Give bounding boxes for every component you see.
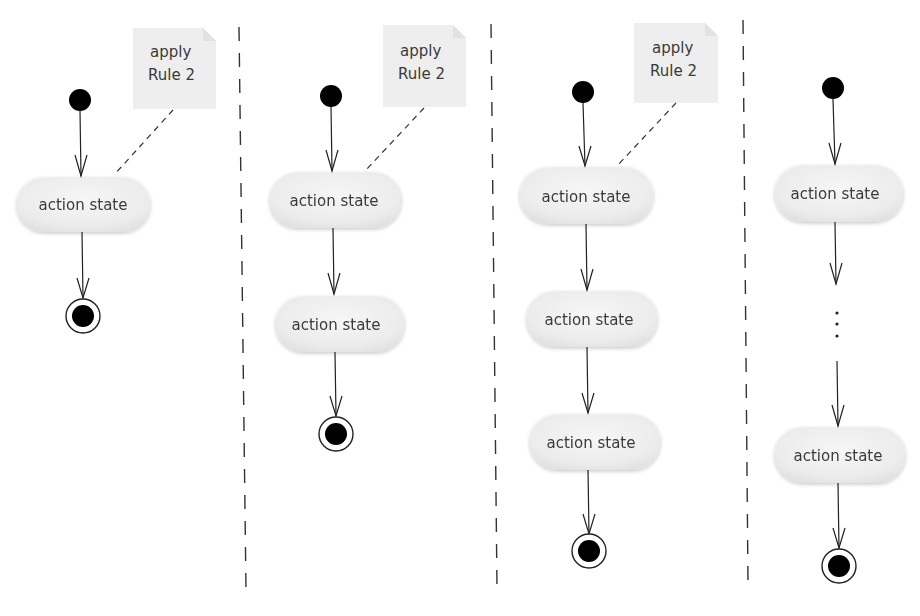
action-state-node: action state	[17, 178, 150, 232]
note-line-1: apply	[150, 43, 191, 61]
note-anchor-line	[617, 103, 676, 166]
action-state-node: action state	[270, 173, 401, 228]
final-node	[66, 299, 100, 333]
action-state-label: action state	[292, 316, 381, 334]
transition-arrow	[582, 347, 594, 413]
note-line-2: Rule 2	[148, 66, 195, 84]
ellipsis-icon	[835, 311, 838, 337]
transition-arrow	[330, 352, 342, 416]
action-state-node: action state	[520, 168, 653, 224]
note-line-2: Rule 2	[650, 62, 697, 80]
transition-arrow	[579, 103, 591, 166]
transition-arrow	[328, 228, 340, 294]
action-state-label: action state	[791, 185, 880, 203]
transition-arrow	[829, 99, 841, 164]
note-anchor-line	[365, 108, 424, 171]
action-state-node: action state	[527, 292, 657, 347]
transition-arrow	[833, 483, 845, 548]
column-1: apply Rule 2 action state	[17, 28, 216, 333]
transition-arrow	[583, 470, 595, 534]
note-apply-rule-2: apply Rule 2	[383, 25, 466, 107]
action-state-label: action state	[39, 196, 128, 214]
note-apply-rule-2: apply Rule 2	[634, 23, 718, 103]
action-state-label: action state	[545, 311, 634, 329]
initial-node	[822, 77, 844, 99]
note-line-2: Rule 2	[398, 65, 445, 83]
transition-arrow	[75, 111, 87, 176]
transition-arrow	[77, 232, 89, 298]
action-state-node: action state	[530, 415, 660, 470]
transition-arrow	[830, 222, 842, 284]
transition-arrow	[832, 361, 844, 426]
column-4: action state action state	[775, 77, 905, 583]
note-line-1: apply	[400, 42, 441, 60]
column-divider-1	[239, 27, 246, 590]
note-apply-rule-2: apply Rule 2	[133, 28, 216, 109]
action-state-label: action state	[547, 434, 636, 452]
note-line-1: apply	[652, 39, 693, 57]
initial-node	[320, 85, 342, 107]
final-node	[319, 417, 353, 451]
action-state-node: action state	[775, 428, 905, 483]
transition-arrow	[581, 224, 593, 290]
initial-node	[69, 89, 91, 111]
action-state-label: action state	[794, 447, 883, 465]
column-divider-3	[743, 20, 748, 583]
column-divider-2	[491, 24, 497, 587]
action-state-node: action state	[276, 297, 404, 352]
final-node	[572, 534, 606, 568]
action-state-node: action state	[775, 166, 903, 222]
action-state-label: action state	[290, 192, 379, 210]
transition-arrow	[326, 107, 338, 171]
action-state-label: action state	[542, 188, 631, 206]
initial-node	[572, 81, 594, 103]
column-2: apply Rule 2 action state action state	[270, 25, 466, 451]
note-anchor-line	[114, 110, 173, 175]
activity-diagram-canvas: apply Rule 2 action state apply Rule 2	[0, 0, 920, 616]
final-node	[822, 549, 856, 583]
column-3: apply Rule 2 action state action state	[520, 23, 718, 568]
